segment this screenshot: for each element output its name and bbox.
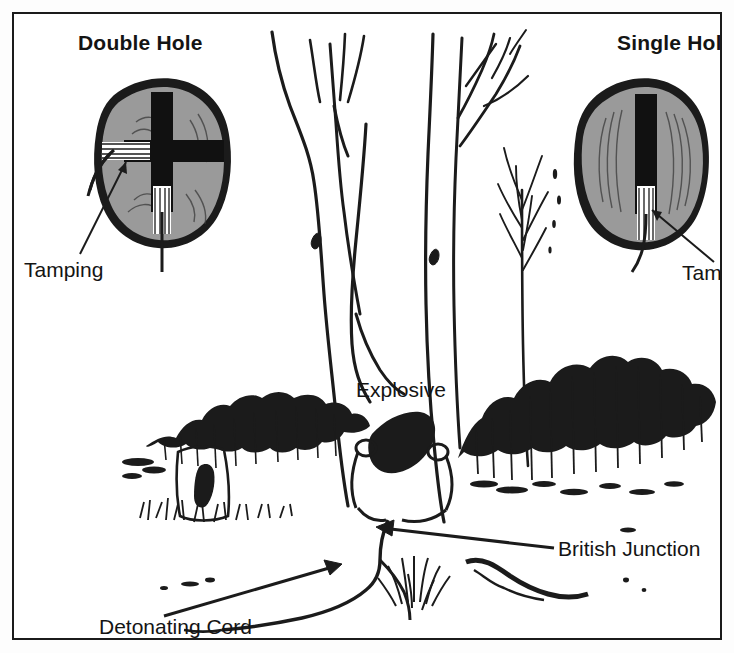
- leader-arrow-detonating-cord: [324, 560, 342, 575]
- grass-tuft-foreground: [378, 556, 450, 610]
- leader-line-british-junction: [382, 528, 554, 548]
- tree-stump-bark-shade: [194, 464, 215, 508]
- figure-root: Double Hole Single Hole Tamping Tampi Ex…: [0, 0, 734, 653]
- cross-section-single-hole: [574, 78, 714, 272]
- callout-tamping-right: Tampi: [682, 262, 722, 283]
- cross-section-double-hole: [80, 78, 231, 272]
- tree-branch-second-c: [466, 44, 496, 86]
- figure-frame-border: Double Hole Single Hole Tamping Tampi Ex…: [12, 12, 722, 640]
- tree-trunk-second-right-edge: [454, 38, 462, 448]
- shrub-left: [146, 392, 370, 453]
- explosive-charge-block: [368, 412, 435, 473]
- sapling-twig-dots: [548, 169, 561, 254]
- shrub-right-scatter: [470, 480, 684, 495]
- shrub-left-scatter: [122, 458, 166, 479]
- heading-single-hole: Single Hole: [617, 32, 722, 53]
- shrub-right: [458, 356, 716, 458]
- detonating-cord-branch: [380, 560, 410, 620]
- callout-tamping-left: Tamping: [24, 259, 103, 280]
- callout-british-junction: British Junction: [558, 538, 700, 559]
- callout-explosive: Explosive: [356, 379, 446, 400]
- tree-branch-upper-left: [310, 40, 320, 102]
- tamping-plug-horizontal-double: [102, 142, 150, 160]
- leader-line-detonating-cord: [164, 566, 336, 616]
- tree-trunk-main-left-inner: [330, 44, 360, 314]
- tree-branch-upper-right: [348, 36, 364, 102]
- heading-double-hole: Double Hole: [78, 32, 203, 53]
- tree-branch-upper-mid: [340, 34, 345, 100]
- tree-trunk-main-right-edge: [351, 124, 370, 402]
- callout-detonating-cord: Detonating Cord: [99, 616, 252, 637]
- trunk-knot-second: [429, 249, 439, 265]
- ground-ridge-right: [466, 560, 588, 597]
